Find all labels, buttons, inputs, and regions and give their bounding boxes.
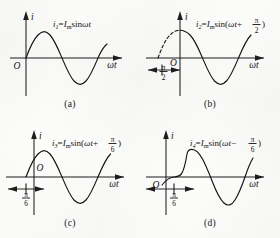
phase-frac-den-d: 6 (172, 199, 176, 208)
svg-text:i4=Imsin(ωt−: i4=Imsin(ωt− (190, 138, 236, 149)
eq-close-paren-b: ) (262, 19, 265, 29)
eq-sign-d: − (231, 138, 236, 148)
eq-frac-num-d: π (251, 135, 255, 144)
eq-close-paren-c: ) (118, 138, 121, 148)
phase-frac-den-b: 2 (162, 73, 166, 82)
equation-b: i2=Imsin(ωt+ π 2 ) (196, 16, 265, 35)
eq-sign-c: + (93, 138, 98, 148)
phase-frac-num-b: π (162, 63, 166, 72)
origin-label-a: O (14, 61, 21, 71)
eq-fn-b: sin (215, 19, 226, 29)
eq-close-paren-d: ) (258, 138, 261, 148)
x-axis-label-a: ωt (107, 60, 117, 70)
svg-text:i3=Imsin(ωt+: i3=Imsin(ωt+ (52, 138, 98, 149)
x-axis-label-d: ωt (249, 179, 259, 189)
phase-marker-c: π 6 (8, 184, 44, 209)
eq-arg-a: ωt (82, 19, 91, 29)
panel-caption-c: (c) (0, 218, 140, 228)
panel-caption-b: (b) (140, 99, 280, 109)
origin-label-b: O (170, 58, 177, 68)
phase-arrow-left-b (148, 67, 157, 73)
phase-frac-den-c: 6 (24, 199, 28, 208)
y-axis-label-b: i (185, 12, 188, 22)
panel-caption-a: (a) (0, 99, 140, 109)
y-axis-label-c: i (39, 131, 42, 141)
eq-fn-a: sin (72, 19, 83, 29)
waveform-b (180, 30, 251, 84)
equation-c: i3=Imsin(ωt+ π 6 ) (52, 135, 121, 154)
phase-frac-num-c: π (24, 190, 28, 199)
y-axis-arrow-c (31, 130, 37, 139)
equation-d: i4=Imsin(ωt− π 6 ) (190, 135, 261, 154)
eq-fn-d: sin (209, 138, 220, 148)
y-axis-label-a: i (31, 12, 34, 22)
eq-fn-c: sin (71, 138, 82, 148)
y-axis-arrow-a (23, 11, 29, 20)
y-axis-label-d: i (171, 131, 174, 141)
phase-arrow-right-b (171, 67, 180, 73)
svg-text:i2=Imsin(ωt+: i2=Imsin(ωt+ (196, 19, 242, 30)
eq-frac-den-b: 2 (255, 26, 259, 35)
panel-caption-d: (d) (140, 218, 280, 228)
eq-frac-den-c: 6 (111, 145, 115, 154)
origin-label-d: O (153, 180, 160, 190)
eq-frac-num-c: π (111, 135, 115, 144)
x-axis-label-b: ωt (249, 60, 259, 70)
eq-frac-num-b: π (255, 16, 259, 25)
figure-root: i ωt O i1=Imsinωt (a) (0, 0, 280, 238)
eq-frac-den-d: 6 (251, 145, 255, 154)
phase-frac-num-d: π (172, 190, 176, 199)
phase-arrow-right-d (185, 186, 194, 192)
phase-arrow-right-c (35, 186, 44, 192)
y-axis-arrow-b (177, 11, 183, 20)
origin-label-c: O (37, 163, 44, 173)
phase-arrow-left-c (8, 186, 17, 192)
y-axis-arrow-d (163, 130, 169, 139)
waveform-lead-dashed-b (158, 30, 180, 58)
equation-a: i1=Imsinωt (53, 19, 91, 30)
eq-sign-b: + (237, 19, 242, 29)
svg-text:i1=Imsinωt: i1=Imsinωt (53, 19, 91, 30)
x-axis-label-c: ωt (109, 179, 119, 189)
